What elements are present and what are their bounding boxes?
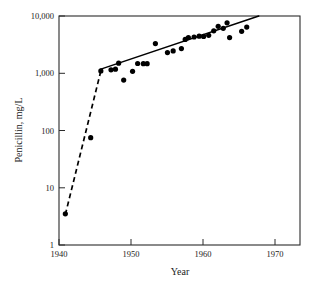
y-tick-label-10: 10 [46, 183, 55, 193]
data-point [135, 61, 140, 66]
chart-canvas: 10,000 1,000 100 10 1 1940 1950 1960 197… [0, 0, 315, 286]
plot-frame [59, 16, 300, 245]
data-point [130, 69, 135, 74]
data-point [98, 68, 103, 73]
data-point [244, 24, 249, 29]
x-tick-label-1940: 1940 [51, 249, 68, 259]
data-point [88, 135, 93, 140]
x-tick-label-1950: 1950 [123, 249, 140, 259]
data-point [216, 24, 221, 29]
y-tick-label-1000: 1,000 [35, 68, 54, 78]
data-point [113, 67, 118, 72]
data-point [211, 28, 216, 33]
data-point-layer [63, 20, 250, 216]
data-point [108, 67, 113, 72]
data-point [145, 61, 150, 66]
y-axis-title: Penicillin, mg/L [13, 98, 24, 163]
data-point [171, 48, 176, 53]
data-point [121, 77, 126, 82]
data-point [63, 211, 68, 216]
x-tick-label-1960: 1960 [195, 249, 212, 259]
y-tick-label-100: 100 [41, 126, 54, 136]
data-point [153, 41, 158, 46]
data-point [201, 34, 206, 39]
data-point [116, 61, 121, 66]
data-point [224, 20, 229, 25]
x-axis-title: Year [171, 266, 190, 277]
data-point [206, 33, 211, 38]
fit-line-layer [65, 16, 258, 215]
data-point [239, 29, 244, 34]
data-point [197, 34, 202, 39]
y-axis-ticks [59, 16, 65, 245]
data-point [165, 50, 170, 55]
late-phase-fit [101, 16, 259, 69]
data-point [191, 34, 196, 39]
x-axis-ticks [59, 239, 275, 245]
early-phase-fit [65, 71, 101, 215]
penicillin-titer-chart: 10,000 1,000 100 10 1 1940 1950 1960 197… [0, 0, 315, 286]
data-point [227, 35, 232, 40]
x-tick-label-1970: 1970 [267, 249, 284, 259]
y-tick-label-10000: 10,000 [31, 11, 54, 21]
data-point [221, 26, 226, 31]
data-point [179, 46, 184, 51]
data-point [186, 35, 191, 40]
